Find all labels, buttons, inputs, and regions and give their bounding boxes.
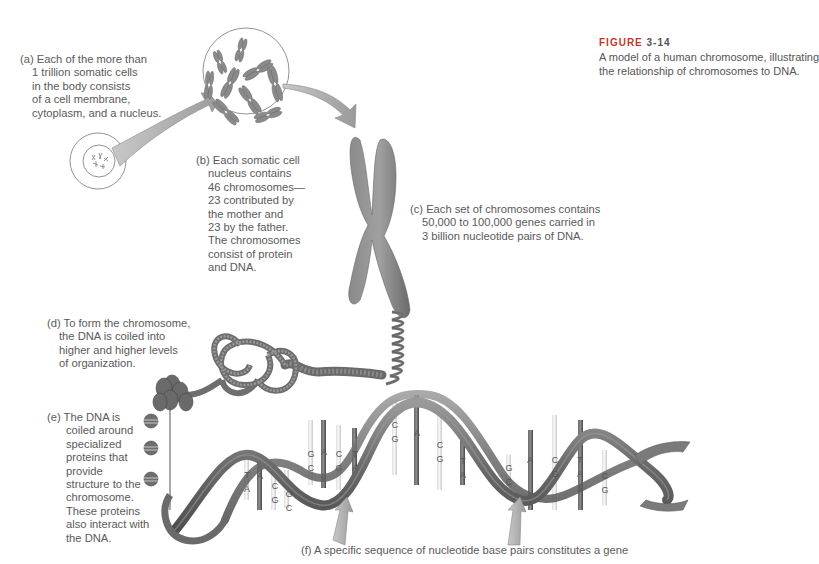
annotation-line: 23 by the father.	[196, 221, 305, 234]
annotation-line: Each somatic cell	[213, 154, 300, 166]
base-letter: A	[527, 455, 533, 465]
base-letter: C	[272, 481, 279, 491]
base-letter: C	[506, 477, 513, 487]
annotation-line: 23 contributed by	[196, 194, 305, 207]
annotation-line: proteins that	[47, 451, 149, 464]
nucleosome-cluster	[153, 375, 193, 411]
annotation-line: provide	[47, 465, 149, 478]
annotation-c: (c) Each set of chromosomes contains 50,…	[410, 203, 600, 243]
chromosome-icon	[349, 137, 410, 317]
base-letter: T	[352, 449, 358, 459]
nucleus-icon	[203, 28, 289, 126]
caption-line: A model of a human chromosome, illustrat…	[599, 51, 819, 65]
annotation-line: and DNA.	[196, 261, 305, 274]
base-letter: A	[352, 463, 358, 473]
annotation-line: the DNA.	[47, 532, 149, 545]
annotation-line: Each set of chromosomes contains	[426, 203, 600, 215]
annotation-line: The chromosomes	[196, 234, 305, 247]
annotation-line: 50,000 to 100,000 genes carried in	[410, 216, 600, 229]
base-letter: G	[601, 485, 608, 495]
base-letter: A	[460, 470, 466, 480]
base-letter: T	[460, 456, 466, 466]
base-letter: T	[577, 455, 583, 465]
base-letter: C	[392, 420, 399, 430]
annotation-line: 3 billion nucleotide pairs of DNA.	[410, 230, 600, 243]
base-letter: C	[336, 449, 343, 459]
annotation-f: (f) A specific sequence of nucleotide ba…	[301, 544, 628, 557]
annotation-line: Each of the more than	[37, 53, 147, 65]
annotation-line: nucleus contains	[196, 167, 305, 180]
base-letter: G	[505, 463, 512, 473]
base-letter: A	[244, 484, 250, 494]
annotation-tag: (d)	[47, 317, 61, 329]
figure-number: 3-14	[647, 37, 671, 48]
base-letter: G	[271, 495, 278, 505]
figure-label-text: FIGURE	[599, 37, 643, 48]
annotation-line: the DNA is coiled into	[47, 330, 190, 343]
annotation-line: A specific sequence of nucleotide base p…	[314, 544, 628, 556]
base-letter: A	[577, 469, 583, 479]
annotation-tag: (e)	[47, 411, 61, 423]
annotation-tag: (f)	[301, 544, 312, 556]
annotation-line: the mother and	[196, 208, 305, 221]
arrow-nucleus-to-chromosome	[283, 84, 356, 128]
annotation-line: cytoplasm, and a nucleus.	[20, 107, 161, 120]
annotation-line: higher and higher levels	[47, 344, 190, 357]
base-letter: T	[244, 470, 250, 480]
base-letter: G	[436, 454, 443, 464]
base-letter: G	[307, 449, 314, 459]
annotation-tag: (b)	[196, 154, 210, 166]
annotation-line: chromosome.	[47, 491, 149, 504]
figure-label: FIGURE 3-14	[599, 37, 671, 48]
dna-double-helix: T A A C G G C G C A C G T A C G A C G T …	[165, 394, 690, 541]
annotation-tag: (a)	[20, 53, 34, 65]
annotation-line: also interact with	[47, 518, 149, 531]
annotation-line: coiled around	[47, 424, 149, 437]
annotation-line: To form the chromosome,	[64, 317, 191, 329]
base-letter: C	[552, 455, 559, 465]
base-letter: C	[602, 471, 609, 481]
annotation-line: These proteins	[47, 505, 149, 518]
annotation-d: (d) To form the chromosome, the DNA is c…	[47, 317, 190, 371]
annotation-line: in the body consists	[20, 80, 161, 93]
annotation-line: The DNA is	[64, 411, 121, 423]
coiled-dna-fiber	[386, 312, 403, 384]
annotation-e: (e) The DNA is coiled around specialized…	[47, 411, 149, 545]
base-letter: A	[257, 471, 263, 481]
base-letter: A	[414, 428, 420, 438]
annotation-line: 1 trillion somatic cells	[20, 66, 161, 79]
figure-caption: A model of a human chromosome, illustrat…	[599, 51, 819, 78]
annotation-line: of organization.	[47, 357, 190, 370]
annotation-line: specialized	[47, 438, 149, 451]
annotation-line: structure to the	[47, 478, 149, 491]
annotation-line: consist of protein	[196, 248, 305, 261]
annotation-b: (b) Each somatic cell nucleus contains 4…	[196, 154, 305, 275]
base-letter: G	[551, 469, 558, 479]
annotation-tag: (c)	[410, 203, 423, 215]
looped-chromatin	[185, 336, 296, 395]
base-letter: G	[391, 434, 398, 444]
annotation-line: 46 chromosomes—	[196, 181, 305, 194]
annotation-line: of a cell membrane,	[20, 93, 161, 106]
caption-line: the relationship of chromosomes to DNA.	[599, 65, 819, 79]
base-letter: C	[286, 503, 293, 513]
base-letter: C	[308, 463, 315, 473]
base-letter: G	[335, 463, 342, 473]
base-letter: G	[285, 489, 292, 499]
annotation-a: (a) Each of the more than 1 trillion som…	[20, 53, 161, 120]
base-letter: A	[321, 447, 327, 457]
base-letter: C	[437, 440, 444, 450]
